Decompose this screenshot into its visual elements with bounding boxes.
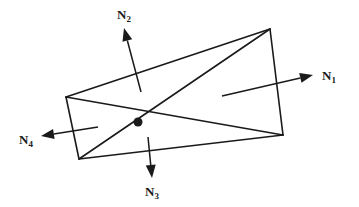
- arrowhead-icon: [123, 28, 133, 42]
- arrowhead-icon: [299, 73, 313, 83]
- quadrilateral-normals-diagram: N1N2N3N4: [0, 0, 359, 207]
- edge-top: [66, 29, 270, 97]
- normal-label: N1: [322, 68, 336, 85]
- arrow-shaft: [222, 78, 300, 96]
- center-node: [134, 118, 143, 127]
- normal-n1: N1: [222, 68, 336, 96]
- normal-n3: N3: [145, 137, 159, 201]
- normal-label: N2: [117, 7, 131, 24]
- normal-label: N4: [19, 132, 33, 149]
- normal-vectors: N1N2N3N4: [19, 7, 336, 201]
- arrowhead-icon: [146, 165, 156, 178]
- arrowhead-icon: [41, 129, 55, 139]
- normal-label: N3: [145, 184, 159, 201]
- diagonal-topleft-bottomright: [66, 97, 283, 135]
- arrow-shaft: [54, 127, 98, 134]
- edge-left: [66, 97, 79, 159]
- normal-n4: N4: [19, 127, 98, 149]
- arrow-shaft: [127, 41, 141, 92]
